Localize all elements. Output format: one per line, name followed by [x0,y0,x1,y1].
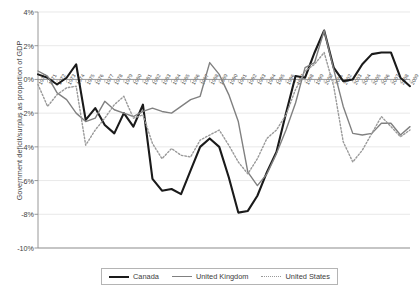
legend-swatch-united-states [261,276,281,277]
y-tick-label: -8% [4,210,34,219]
y-tick-label: -10% [4,244,34,253]
chart-legend: Canada United Kingdom United States [101,268,338,285]
y-tick-label: -4% [4,142,34,151]
legend-label-united-kingdom: United Kingdom [196,272,249,281]
x-tick-label: 2009 [409,73,420,86]
y-tick-label: -6% [4,176,34,185]
legend-label-united-states: United States [285,272,329,281]
legend-swatch-canada [109,276,129,278]
chart-plot-svg [38,12,410,248]
y-axis-title: Government deficit/surplus as proportion… [15,6,24,236]
y-tick-label: 4% [4,8,34,17]
legend-label-canada: Canada [133,272,159,281]
y-tick-label: 0% [4,75,34,84]
legend-item-united-states[interactable]: United States [261,272,329,281]
y-tick-label: 2% [4,41,34,50]
legend-item-united-kingdom[interactable]: United Kingdom [172,272,249,281]
legend-item-canada[interactable]: Canada [109,272,159,281]
plot-area: 4%2%0%-2%-4%-6%-8%-10% 19701971197219731… [38,12,410,248]
y-tick-label: -2% [4,109,34,118]
legend-swatch-united-kingdom [172,276,192,277]
